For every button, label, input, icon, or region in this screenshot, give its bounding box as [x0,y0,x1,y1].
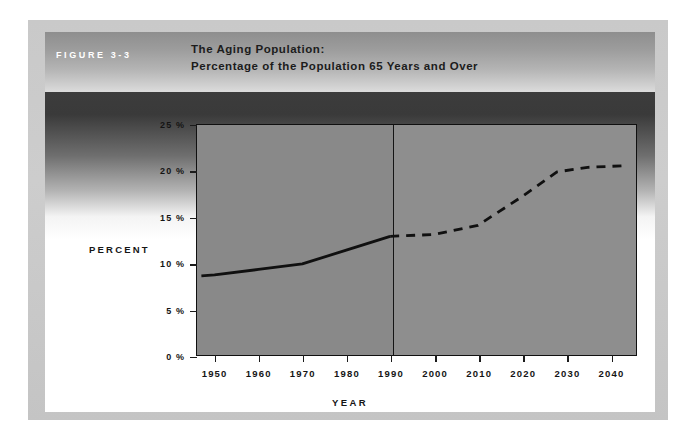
x-axis-tick [215,355,216,362]
figure-card: FIGURE 3-3 The Aging Population: Percent… [45,32,655,412]
figure-title: The Aging Population: Percentage of the … [191,41,478,75]
series-line-projected [390,165,627,236]
y-axis-tick-label: 15 % [160,213,185,223]
y-axis-tick [190,357,197,358]
x-axis-tick [479,355,480,362]
x-axis-tick [347,355,348,362]
x-axis-tick [523,355,524,362]
x-axis-tick-label: 1950 [202,368,228,379]
x-axis-tick-label: 2040 [599,368,625,379]
y-axis-tick [190,171,197,172]
series-layer [197,125,636,355]
series-line-actual [201,236,390,276]
x-axis-tick-label: 1980 [334,368,360,379]
x-axis-tick [259,355,260,362]
x-axis-tick-label: 1970 [290,368,316,379]
x-axis-tick [391,355,392,362]
x-axis-tick-label: 1960 [246,368,272,379]
y-axis-tick [190,218,197,219]
figure-title-line-1: The Aging Population: [191,41,478,58]
y-axis-tick [190,311,197,312]
x-axis-tick-label: 2000 [422,368,448,379]
figure-mount-panel: FIGURE 3-3 The Aging Population: Percent… [28,20,668,420]
y-axis-tick-label: 25 % [160,120,185,130]
figure-root: FIGURE 3-3 The Aging Population: Percent… [0,0,698,444]
y-axis-tick-label: 20 % [160,166,185,176]
x-axis-tick [567,355,568,362]
y-axis-title: PERCENT [89,244,150,255]
y-axis-tick-label: 5 % [166,306,185,316]
x-axis-tick-label: 2010 [466,368,492,379]
y-axis-tick-label: 10 % [160,259,185,269]
x-axis-tick [435,355,436,362]
chart-plot-area: 0 %5 %10 %15 %20 %25 % 19501960197019801… [196,124,637,356]
x-axis-tick [303,355,304,362]
figure-title-line-2: Percentage of the Population 65 Years an… [191,58,478,75]
x-axis-tick-label: 2030 [554,368,580,379]
x-axis-tick-label: 1990 [378,368,404,379]
figure-number-label: FIGURE 3-3 [56,50,132,60]
x-axis-tick [612,355,613,362]
y-axis-tick-label: 0 % [166,352,185,362]
x-axis-title: YEAR [45,397,655,408]
chart-plate: PERCENT 0 %5 %10 %15 %20 %25 % 195019601… [45,92,655,412]
figure-header-band: FIGURE 3-3 The Aging Population: Percent… [45,32,655,92]
x-axis-tick-label: 2020 [510,368,536,379]
y-axis-tick [190,264,197,265]
y-axis-tick [190,125,197,126]
